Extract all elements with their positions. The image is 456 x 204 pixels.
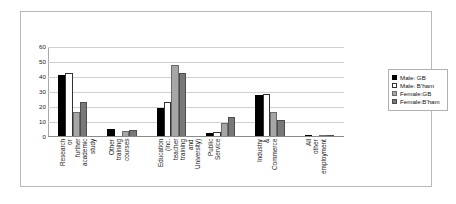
- bar-group: [157, 47, 187, 137]
- legend-label: Male: B'ham: [400, 83, 434, 89]
- y-tick-label: 20: [24, 104, 46, 110]
- bar-group: [206, 47, 236, 137]
- chart-container: 6050403020100 Research or further academ…: [20, 11, 432, 187]
- bar[interactable]: [58, 75, 65, 137]
- x-axis-label: Education (inc. teacher training and Uni…: [157, 139, 185, 195]
- bar[interactable]: [73, 112, 80, 138]
- x-axis-line: [48, 136, 344, 137]
- bar[interactable]: [171, 65, 178, 137]
- plot-area: [48, 47, 344, 137]
- legend-label: Female:B'ham: [400, 99, 440, 105]
- y-tick-label: 10: [24, 119, 46, 125]
- bar-group: [305, 47, 335, 137]
- bar[interactable]: [80, 102, 87, 137]
- bar[interactable]: [228, 117, 235, 137]
- x-axis-category-labels: Research or further academic studyOther …: [48, 139, 344, 197]
- legend-item[interactable]: Male: GB: [392, 75, 444, 81]
- bar-group: [58, 47, 88, 137]
- x-axis-label: Public Service: [207, 139, 235, 195]
- legend-label: Female:GB: [400, 91, 431, 97]
- bar[interactable]: [263, 94, 270, 137]
- bar[interactable]: [277, 120, 284, 137]
- y-axis-tick-labels: 6050403020100: [21, 47, 46, 137]
- legend-swatch-icon: [392, 91, 397, 96]
- legend-swatch-icon: [392, 99, 397, 104]
- bar[interactable]: [157, 108, 164, 137]
- legend-swatch-icon: [392, 83, 397, 88]
- y-tick-label: 30: [24, 89, 46, 95]
- chart-legend: Male: GBMale: B'hamFemale:GBFemale:B'ham: [388, 69, 448, 111]
- legend-item[interactable]: Female:GB: [392, 91, 444, 97]
- legend-label: Male: GB: [400, 75, 426, 81]
- y-tick-label: 50: [24, 59, 46, 65]
- bar[interactable]: [179, 73, 186, 137]
- legend-item[interactable]: Female:B'ham: [392, 99, 444, 105]
- x-axis-label: All other employment: [305, 139, 333, 195]
- legend-swatch-icon: [392, 75, 397, 80]
- y-tick-label: 40: [24, 74, 46, 80]
- bar[interactable]: [221, 123, 228, 137]
- y-tick-label: 60: [24, 44, 46, 50]
- bar[interactable]: [255, 95, 262, 137]
- bars-layer: [48, 47, 344, 137]
- x-axis-label: Other training courses: [108, 139, 136, 195]
- legend-item[interactable]: Male: B'ham: [392, 83, 444, 89]
- bar-group: [255, 47, 285, 137]
- bar-group: [107, 47, 137, 137]
- bar[interactable]: [164, 102, 171, 137]
- bar[interactable]: [270, 112, 277, 138]
- y-tick-label: 0: [24, 134, 46, 140]
- x-axis-label: Industry & Commerce: [256, 139, 284, 195]
- bar[interactable]: [65, 73, 72, 137]
- x-axis-label: Research or further academic study: [59, 139, 87, 195]
